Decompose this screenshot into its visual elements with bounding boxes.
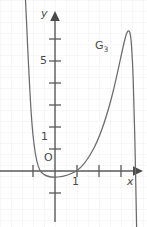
graph-canvas <box>0 0 147 227</box>
y-tick-label-5: 5 <box>40 55 47 66</box>
origin-label: O <box>44 152 53 163</box>
y-axis-label: y <box>41 8 48 19</box>
grid-background <box>0 0 147 227</box>
x-axis-label: x <box>127 176 134 187</box>
function-graph-figure: y x O 5 1 1 G3 <box>0 0 147 227</box>
curve-label-g3: G3 <box>95 40 108 54</box>
y-tick-label-1: 1 <box>41 131 48 142</box>
x-tick-label-1: 1 <box>72 176 79 187</box>
curve-label-subscript: 3 <box>104 45 109 54</box>
curve-label-base: G <box>95 39 104 52</box>
